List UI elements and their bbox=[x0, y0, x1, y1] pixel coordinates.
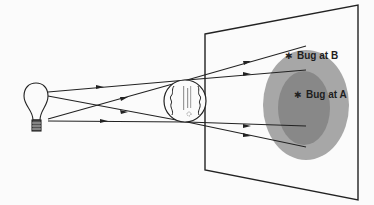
label-bug-a: Bug at A bbox=[306, 89, 347, 100]
optics-diagram: ✱ Bug at B ✱ Bug at A bbox=[0, 0, 374, 205]
occluder-disc bbox=[164, 80, 206, 122]
label-bug-b: Bug at B bbox=[297, 50, 338, 61]
bug-icon: ✱ bbox=[294, 90, 302, 100]
diagram-canvas: ✱ Bug at B ✱ Bug at A bbox=[0, 0, 374, 205]
bug-icon: ✱ bbox=[285, 51, 293, 61]
inner-shadow-region bbox=[278, 71, 330, 145]
bug-a-marker: ✱ Bug at A bbox=[294, 89, 347, 100]
light-bulb-icon bbox=[24, 83, 48, 131]
arrow-icon bbox=[100, 119, 108, 123]
bug-b-marker: ✱ Bug at B bbox=[285, 50, 338, 61]
arrow-icon bbox=[120, 97, 128, 101]
arrow-icon bbox=[96, 85, 104, 89]
